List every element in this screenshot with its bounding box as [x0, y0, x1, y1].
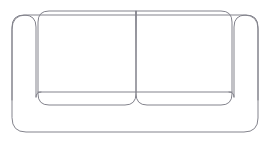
sofa-illustration-canvas: Two-seat sofa front view outline Sofa bo…: [0, 0, 270, 142]
sofa-drawing: Two-seat sofa front view outline Sofa bo…: [0, 0, 270, 142]
drawing-background: [0, 0, 270, 142]
